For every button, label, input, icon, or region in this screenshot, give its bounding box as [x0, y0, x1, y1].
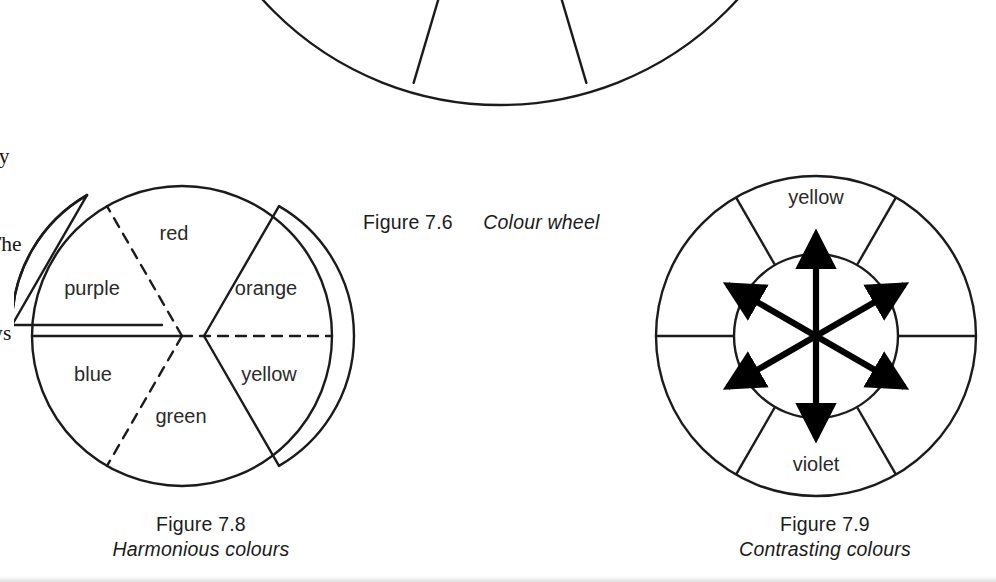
- caption-number: Figure 7.6: [363, 211, 453, 233]
- body-text-line: ree: [0, 53, 136, 83]
- page-canvas: ree then any want. The .6 shows ix.: [0, 0, 996, 582]
- harmonious-exploded-wedge-purple: [14, 195, 87, 325]
- body-text-line: then any: [0, 142, 136, 172]
- harmonious-label-red: red: [160, 222, 189, 244]
- caption-title: Harmonious colours: [83, 537, 319, 562]
- caption-figure-7-8: Figure 7.8 Harmonious colours: [83, 512, 319, 562]
- contrast-label-yellow: yellow: [788, 186, 844, 208]
- scan-edge-band: [0, 576, 996, 582]
- harmonious-label-blue: blue: [74, 363, 112, 385]
- wheel-outer-circle: [180, 0, 820, 105]
- caption-title: Colour wheel: [483, 211, 599, 233]
- contrast-arrows: [728, 234, 905, 438]
- caption-figure-7-6: Figure 7.6 Colour wheel: [363, 210, 599, 235]
- figure-7-9-contrasting-colours: yellow violet: [636, 166, 996, 506]
- harmonious-label-yellow: yellow: [241, 363, 297, 385]
- harmonious-label-purple: purple: [64, 277, 120, 299]
- figure-7-8-harmonious-colours: red orange yellow green blue purple: [14, 168, 374, 508]
- caption-title: Contrasting colours: [700, 537, 950, 562]
- caption-number: Figure 7.9: [700, 512, 950, 537]
- harmonious-label-green: green: [155, 405, 206, 427]
- wheel-divider-left: [410, 0, 447, 83]
- caption-number: Figure 7.8: [83, 512, 319, 537]
- contrast-label-violet: violet: [793, 453, 840, 475]
- harmonious-label-orange: orange: [235, 277, 297, 299]
- caption-figure-7-9: Figure 7.9 Contrasting colours: [700, 512, 950, 562]
- wheel-divider-right: [553, 0, 590, 83]
